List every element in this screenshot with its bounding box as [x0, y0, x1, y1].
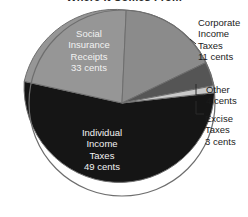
slice-label-line: Receipts	[47, 51, 131, 62]
slice-label-line: Corporate	[198, 17, 240, 28]
slice-label-line: Excise	[205, 113, 236, 124]
pie-chart-figure: Where It Comes From Social Insurance Rec…	[0, 0, 248, 217]
slice-label-corporate-income-taxes: Corporate Income Taxes 11 cents	[198, 17, 240, 63]
slice-label-value: 33 cents	[47, 62, 131, 73]
slice-label-line: Social	[47, 28, 131, 39]
slice-label-other: Other 4 cents	[206, 84, 237, 107]
slice-label-line: Individual	[60, 127, 144, 138]
slice-label-value: 3 cents	[205, 136, 236, 147]
slice-label-line: Taxes	[60, 150, 144, 161]
slice-label-line: Income	[198, 28, 240, 39]
slice-label-value: 49 cents	[60, 161, 144, 172]
slice-label-excise-taxes: Excise Taxes 3 cents	[205, 113, 236, 147]
slice-label-individual-income-taxes: Individual Income Taxes 49 cents	[60, 127, 144, 173]
slice-label-line: Taxes	[205, 124, 236, 135]
slice-label-value: 11 cents	[198, 51, 240, 62]
slice-label-line: Other	[206, 84, 237, 95]
slice-label-value: 4 cents	[206, 95, 237, 106]
slice-label-line: Insurance	[47, 39, 131, 50]
slice-label-line: Taxes	[198, 40, 240, 51]
slice-label-line: Income	[60, 138, 144, 149]
slice-label-social-insurance-receipts: Social Insurance Receipts 33 cents	[47, 28, 131, 74]
